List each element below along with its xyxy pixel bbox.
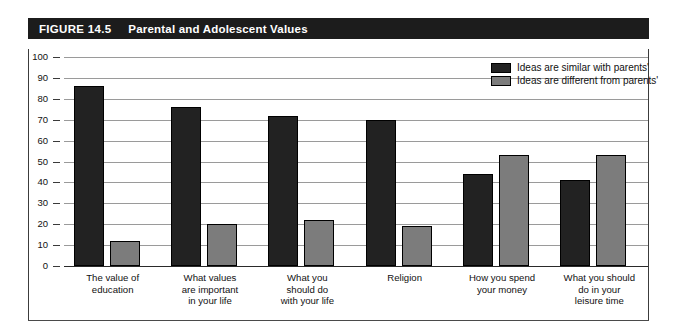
y-axis-tick-mark — [53, 57, 60, 58]
figure-number: FIGURE 14.5 — [39, 23, 111, 35]
y-axis-tick-mark — [53, 78, 60, 79]
y-axis-tick-label: 10 — [22, 240, 48, 250]
bar-different — [499, 155, 529, 266]
y-axis-tick-label: 60 — [22, 136, 48, 146]
bar-similar — [268, 116, 298, 266]
y-axis-tick-label: 50 — [22, 157, 48, 167]
legend-item-different: Ideas are different from parents' — [491, 75, 677, 86]
y-axis-tick-label: 0 — [22, 261, 48, 271]
chart-legend: Ideas are similar with parents' Ideas ar… — [491, 62, 677, 88]
bar-different — [110, 241, 140, 266]
gridline — [64, 266, 648, 267]
y-axis-tick-label: 30 — [22, 198, 48, 208]
y-axis-tick-label: 80 — [22, 94, 48, 104]
legend-swatch-different-icon — [491, 76, 511, 86]
gridline — [64, 162, 648, 163]
y-axis-tick-mark — [53, 99, 60, 100]
bar-similar — [171, 107, 201, 266]
y-axis-tick-mark — [53, 245, 60, 246]
x-axis-category-label: What you should do with your life — [251, 272, 364, 307]
gridline — [64, 57, 648, 58]
y-axis-tick-mark — [53, 182, 60, 183]
y-axis-tick-label: 20 — [22, 219, 48, 229]
legend-label-different: Ideas are different from parents' — [517, 75, 658, 86]
bar-different — [596, 155, 626, 266]
gridline — [64, 99, 648, 100]
x-axis-category-label: Religion — [348, 272, 461, 284]
plot-area: 1009080706050403020100 — [64, 57, 648, 266]
figure-bottom-rule — [28, 320, 649, 321]
y-axis-tick-mark — [53, 120, 60, 121]
y-axis-tick-mark — [53, 203, 60, 204]
gridline — [64, 120, 648, 121]
legend-item-similar: Ideas are similar with parents' — [491, 62, 677, 73]
bar-different — [207, 224, 237, 266]
x-axis-category-label: The value of education — [56, 272, 169, 295]
y-axis-tick-label: 70 — [22, 115, 48, 125]
bar-similar — [366, 120, 396, 266]
chart-container: 1009080706050403020100 Ideas are similar… — [28, 49, 649, 320]
legend-label-similar: Ideas are similar with parents' — [517, 62, 649, 73]
x-axis-category-label: What values are important in your life — [153, 272, 266, 307]
y-axis-tick-mark — [53, 224, 60, 225]
y-axis-tick-mark — [53, 162, 60, 163]
figure-header-bar: FIGURE 14.5 Parental and Adolescent Valu… — [28, 18, 649, 39]
y-axis-tick-mark — [53, 266, 60, 267]
y-axis-tick-label: 90 — [22, 73, 48, 83]
figure-title: Parental and Adolescent Values — [128, 23, 307, 35]
y-axis-tick-label: 100 — [22, 52, 48, 62]
bar-similar — [463, 174, 493, 266]
bar-similar — [74, 86, 104, 266]
y-axis-tick-label: 40 — [22, 177, 48, 187]
gridline — [64, 141, 648, 142]
x-axis-category-label: What you should do in your leisure time — [543, 272, 656, 307]
bar-similar — [560, 180, 590, 266]
x-axis-category-label: How you spend your money — [445, 272, 558, 295]
bar-different — [402, 226, 432, 266]
bar-different — [304, 220, 334, 266]
legend-swatch-similar-icon — [491, 63, 511, 73]
y-axis-tick-mark — [53, 141, 60, 142]
